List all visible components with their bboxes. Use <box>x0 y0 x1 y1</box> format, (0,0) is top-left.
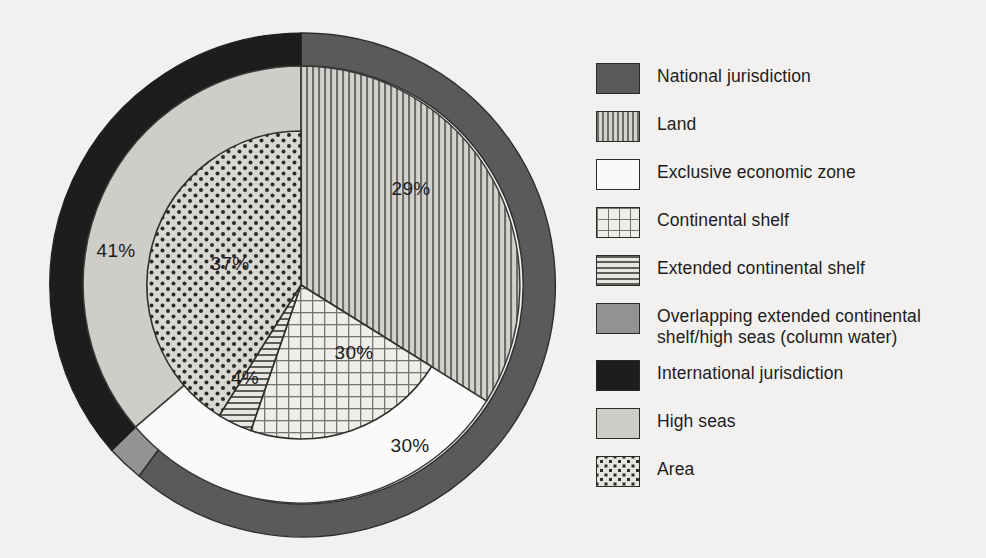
swatch-overlapping-shelf-high-seas <box>596 303 640 334</box>
data-label-high-seas: 41% <box>97 240 136 261</box>
data-label-land: 29% <box>392 178 431 199</box>
legend-item-land: Land <box>596 110 978 144</box>
legend-label-international-jurisdiction: International jurisdiction <box>657 359 843 384</box>
legend-item-international-jurisdiction: International jurisdiction <box>596 359 978 393</box>
legend-item-continental-shelf: Continental shelf <box>596 206 978 240</box>
legend-label-land: Land <box>657 110 696 135</box>
legend-item-overlapping-shelf-high-seas: Overlapping extended continental shelf/h… <box>596 302 978 348</box>
swatch-international-jurisdiction <box>596 360 640 391</box>
pie-chart: 29% 41% 37% 30% 4% 30% <box>0 0 580 558</box>
swatch-area <box>596 456 640 487</box>
pie-chart-svg: 29% 41% 37% 30% 4% 30% <box>0 0 580 558</box>
data-label-continental-shelf: 30% <box>335 342 374 363</box>
legend-label-high-seas: High seas <box>657 407 736 432</box>
swatch-national-jurisdiction <box>596 63 640 94</box>
legend-item-area: Area <box>596 455 978 489</box>
legend-item-high-seas: High seas <box>596 407 978 441</box>
legend-label-exclusive-economic-zone: Exclusive economic zone <box>657 158 856 183</box>
swatch-land <box>596 111 640 142</box>
swatch-high-seas <box>596 408 640 439</box>
swatch-continental-shelf <box>596 207 640 238</box>
swatch-extended-continental-shelf <box>596 255 640 286</box>
legend-item-extended-continental-shelf: Extended continental shelf <box>596 254 978 288</box>
legend-label-national-jurisdiction: National jurisdiction <box>657 62 811 87</box>
page-background: 29% 41% 37% 30% 4% 30% National jurisdic… <box>0 0 986 558</box>
data-label-area: 37% <box>211 253 250 274</box>
legend: National jurisdiction Land Exclusive eco… <box>596 62 978 503</box>
legend-label-extended-continental-shelf: Extended continental shelf <box>657 254 865 279</box>
legend-item-national-jurisdiction: National jurisdiction <box>596 62 978 96</box>
legend-label-continental-shelf: Continental shelf <box>657 206 789 231</box>
data-label-extended-continental-shelf: 4% <box>231 367 259 388</box>
swatch-exclusive-economic-zone <box>596 159 640 190</box>
legend-label-area: Area <box>657 455 694 480</box>
data-label-exclusive-economic-zone: 30% <box>391 435 430 456</box>
legend-label-overlapping-shelf-high-seas: Overlapping extended continental shelf/h… <box>657 302 921 348</box>
legend-item-exclusive-economic-zone: Exclusive economic zone <box>596 158 978 192</box>
